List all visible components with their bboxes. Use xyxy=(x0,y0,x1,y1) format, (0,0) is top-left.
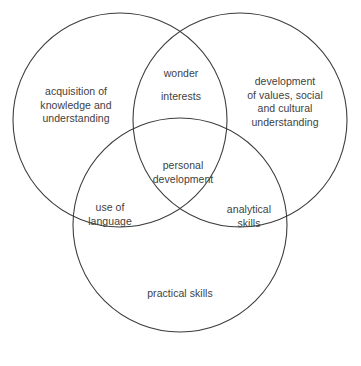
venn-diagram: acquisition of knowledge and understandi… xyxy=(0,0,361,366)
top-left-circle xyxy=(13,13,227,227)
top-right-circle xyxy=(133,13,347,227)
bottom-circle xyxy=(73,118,287,332)
venn-circles-group xyxy=(0,0,361,366)
